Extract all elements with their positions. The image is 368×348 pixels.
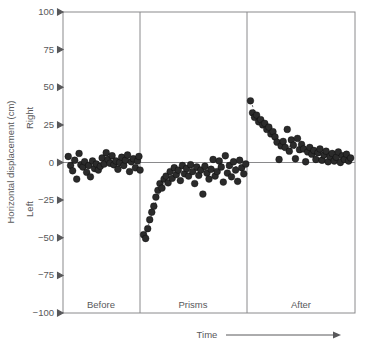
data-point — [234, 178, 241, 185]
tick-arrow-25 — [58, 122, 64, 128]
y-axis-negative-label: Left — [24, 201, 35, 217]
phase-label-prisms: Prisms — [178, 299, 207, 310]
y-tick-label-minus100: −100 — [33, 307, 54, 318]
data-point — [206, 176, 213, 183]
y-tick-label-0: 0 — [49, 157, 54, 168]
data-points-layer — [65, 97, 354, 242]
y-axis-ticks: 100 75 50 25 0 −25 — [33, 6, 63, 318]
tick-arrow-minus50 — [58, 235, 64, 241]
y-tick-label-minus25: −25 — [38, 194, 54, 205]
series-after — [247, 97, 354, 166]
data-point — [222, 152, 229, 159]
y-tick-minus100: −100 — [33, 307, 63, 318]
y-tick-label-25: 25 — [43, 119, 54, 130]
data-point — [177, 177, 184, 184]
data-point — [202, 163, 209, 170]
data-point — [280, 138, 287, 145]
data-point — [65, 153, 72, 160]
data-point — [87, 173, 94, 180]
data-point — [148, 209, 155, 216]
tick-arrow-minus100 — [58, 310, 64, 316]
y-tick-label-minus50: −50 — [38, 232, 54, 243]
chart-figure: 100 75 50 25 0 −25 — [0, 0, 368, 348]
data-point — [136, 153, 143, 160]
series-prisms — [140, 152, 249, 242]
data-point — [144, 225, 151, 232]
y-tick-50: 50 — [43, 81, 63, 92]
data-point — [286, 148, 293, 155]
data-point — [218, 164, 225, 171]
data-point — [317, 146, 324, 153]
data-point — [292, 155, 299, 162]
y-tick-minus75: −75 — [38, 269, 63, 280]
data-point — [236, 157, 243, 164]
data-point — [124, 152, 131, 159]
tick-arrow-minus75 — [58, 272, 64, 278]
y-tick-100: 100 — [38, 6, 63, 17]
data-point — [208, 166, 215, 173]
y-tick-minus50: −50 — [38, 232, 63, 243]
y-tick-25: 25 — [43, 119, 63, 130]
y-tick-75: 75 — [43, 44, 63, 55]
y-tick-label-75: 75 — [43, 44, 54, 55]
data-point — [240, 170, 247, 177]
data-point — [159, 185, 166, 192]
phase-label-before: Before — [87, 299, 115, 310]
data-point — [247, 97, 254, 104]
y-tick-minus25: −25 — [38, 194, 63, 205]
data-point — [71, 157, 78, 164]
series-before — [65, 149, 144, 182]
data-point — [220, 179, 227, 186]
data-point — [142, 235, 149, 242]
data-point — [199, 191, 206, 198]
data-point — [187, 161, 194, 168]
data-point — [76, 150, 83, 157]
y-tick-label-100: 100 — [38, 6, 54, 17]
data-point — [137, 167, 144, 174]
y-tick-label-minus75: −75 — [38, 269, 54, 280]
data-point — [69, 167, 76, 174]
data-point — [284, 126, 291, 133]
data-point — [230, 158, 237, 165]
data-point — [150, 203, 157, 210]
time-arrow-icon — [226, 332, 341, 339]
data-point — [290, 142, 297, 149]
data-point — [210, 156, 217, 163]
tick-arrow-0 — [58, 160, 64, 166]
tick-arrow-75 — [58, 47, 64, 53]
data-point — [115, 166, 122, 173]
tick-arrow-100 — [58, 9, 64, 15]
y-axis-positive-label: Right — [24, 107, 35, 130]
data-point — [232, 167, 239, 174]
tick-arrow-minus25 — [58, 197, 64, 203]
scatter-plot-svg: 100 75 50 25 0 −25 — [0, 0, 368, 348]
data-point — [242, 161, 249, 168]
data-point — [276, 156, 283, 163]
data-point — [312, 156, 319, 163]
phase-label-after: After — [291, 299, 311, 310]
y-axis-title: Horizontal displacement (cm) — [5, 100, 16, 223]
data-point — [146, 216, 153, 223]
y-tick-0: 0 — [49, 157, 63, 168]
data-point — [294, 135, 301, 142]
data-point — [347, 155, 354, 162]
data-point — [191, 180, 198, 187]
data-point — [126, 168, 133, 175]
data-point — [152, 194, 159, 201]
data-point — [216, 158, 223, 165]
x-axis-title: Time — [197, 329, 218, 340]
y-tick-label-50: 50 — [43, 81, 54, 92]
data-point — [302, 158, 309, 165]
data-point — [73, 176, 80, 183]
data-point — [228, 173, 235, 180]
tick-arrow-50 — [58, 84, 64, 90]
